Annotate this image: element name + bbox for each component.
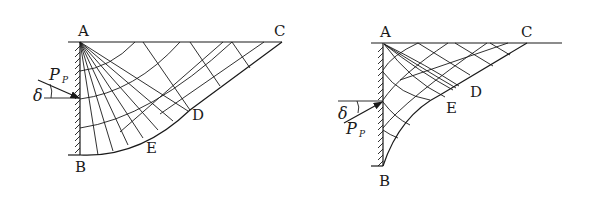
right-label-e: E	[446, 99, 457, 117]
right-label-b: B	[379, 172, 390, 190]
left-label-force-sub: P	[61, 75, 69, 85]
left-label-c: C	[274, 22, 285, 40]
left-label-angle: δ	[33, 86, 43, 105]
left-label-b: B	[75, 158, 86, 176]
left-slip-surface	[80, 42, 282, 155]
right-wall-hatching	[378, 47, 383, 166]
left-label-e: E	[146, 139, 157, 157]
left-fan-lines	[80, 42, 188, 155]
right-diagram: A C B D E P P δ	[338, 23, 562, 190]
left-diagram: A C B D E P P δ	[33, 22, 285, 176]
right-label-angle: δ	[338, 104, 348, 123]
right-passive-grid	[400, 43, 510, 80]
left-arcs	[80, 42, 232, 128]
left-wall-hatching	[75, 46, 80, 153]
diagram-canvas: A C B D E P P δ	[0, 0, 592, 198]
right-label-a: A	[379, 23, 391, 41]
right-label-force-sub: P	[358, 129, 366, 139]
left-label-a: A	[77, 22, 89, 40]
right-label-c: C	[521, 23, 532, 41]
right-label-d: D	[470, 83, 482, 101]
right-angle-arc	[357, 101, 359, 113]
left-label-d: D	[192, 106, 204, 124]
right-fan-lines	[384, 44, 459, 97]
left-label-force: P	[48, 65, 60, 84]
